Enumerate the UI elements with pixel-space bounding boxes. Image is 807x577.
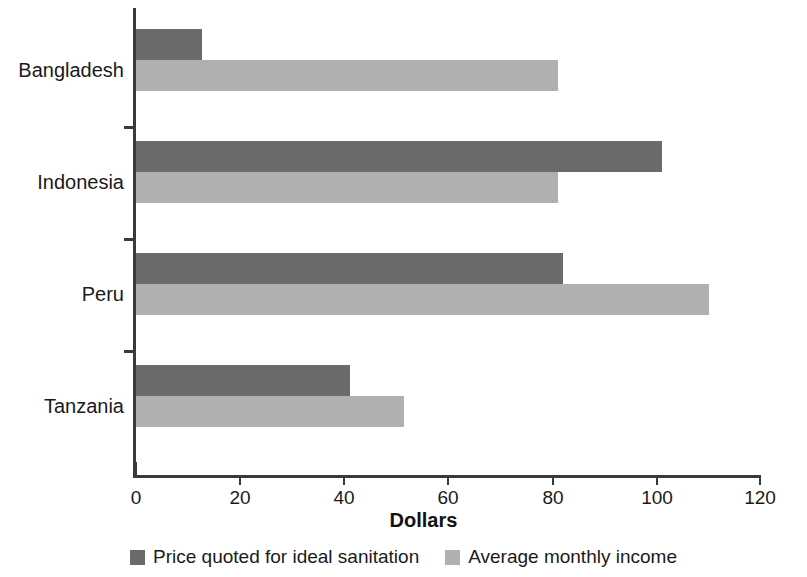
x-axis-tick-120 <box>759 475 761 485</box>
x-axis-label-100: 100 <box>641 487 673 509</box>
bar-tanzania-income <box>136 396 404 427</box>
x-axis-label-60: 60 <box>437 487 458 509</box>
y-axis-tick-3 <box>124 350 134 353</box>
legend-label-income: Average monthly income <box>468 546 677 568</box>
bar-indonesia-price <box>136 141 662 172</box>
x-axis-tick-20 <box>239 475 241 485</box>
x-axis-label-80: 80 <box>542 487 563 509</box>
x-axis-tick-40 <box>343 475 345 485</box>
bar-bangladesh-income <box>136 60 558 91</box>
x-axis-tick-60 <box>447 475 449 485</box>
legend-swatch-icon-income <box>445 550 460 565</box>
x-axis-label-0: 0 <box>131 487 142 509</box>
category-label-tanzania: Tanzania <box>2 395 124 418</box>
x-axis-tick-80 <box>552 475 554 485</box>
y-axis-tick-1 <box>124 126 134 129</box>
bar-tanzania-price <box>136 365 350 396</box>
legend-item-income: Average monthly income <box>445 546 677 568</box>
chart-legend: Price quoted for ideal sanitation Averag… <box>0 546 807 568</box>
legend-item-price: Price quoted for ideal sanitation <box>130 546 419 568</box>
legend-label-price: Price quoted for ideal sanitation <box>153 546 419 568</box>
y-axis-tick-2 <box>124 238 134 241</box>
bar-indonesia-income <box>136 172 558 203</box>
bar-peru-price <box>136 253 563 284</box>
x-axis-label-40: 40 <box>333 487 354 509</box>
bar-peru-income <box>136 284 709 315</box>
x-axis-tick-100 <box>656 475 658 485</box>
y-axis-category-labels: Bangladesh Indonesia Peru Tanzania <box>0 0 124 577</box>
category-label-bangladesh: Bangladesh <box>2 59 124 82</box>
plot-area <box>136 8 761 475</box>
x-axis-label-20: 20 <box>229 487 250 509</box>
category-label-indonesia: Indonesia <box>2 171 124 194</box>
x-axis-label-120: 120 <box>744 487 776 509</box>
category-label-peru: Peru <box>2 283 124 306</box>
x-axis-title-text: Dollars <box>390 509 458 531</box>
bar-chart: Bangladesh Indonesia Peru Tanzania 0 20 … <box>0 0 807 577</box>
bar-bangladesh-price <box>136 29 202 60</box>
legend-swatch-icon-price <box>130 550 145 565</box>
x-axis-title: Dollars <box>0 509 807 532</box>
